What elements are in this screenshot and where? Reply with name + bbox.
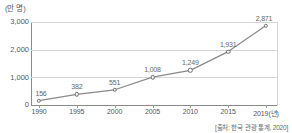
- y-tick-label-0: 0: [1, 101, 29, 109]
- data-label-2000: 551: [109, 79, 120, 86]
- x-tick-label-2019: 2019(년): [253, 108, 279, 118]
- data-label-2005: 1,008: [144, 66, 161, 73]
- data-label-1990: 156: [35, 90, 46, 97]
- x-tick-mark-1990: [39, 105, 40, 108]
- x-tick-mark-1995: [77, 105, 78, 108]
- x-axis-line: [31, 105, 278, 106]
- x-tick-mark-2019: [266, 105, 267, 108]
- line-chart: (만 명) 3,000 2,000 1,000 0 1563825511,008…: [0, 0, 292, 133]
- x-tick-mark-2000: [115, 105, 116, 108]
- data-label-2010: 1,249: [182, 59, 199, 66]
- y-axis-tick-labels: 3,000 2,000 1,000 0: [0, 0, 29, 133]
- x-tick-label-2015: 2015: [221, 108, 236, 115]
- data-label-2019: 2,871: [256, 15, 273, 22]
- data-label-1995: 382: [71, 83, 82, 90]
- source-note: [출처: 한국 관광 통계, 2020]: [215, 122, 288, 132]
- x-tick-mark-2015: [228, 105, 229, 108]
- x-tick-label-2010: 2010: [183, 108, 198, 115]
- x-tick-mark-2010: [190, 105, 191, 108]
- series-line: [31, 22, 278, 105]
- x-tick-label-1990: 1990: [31, 108, 46, 115]
- data-label-2015: 1,931: [220, 41, 237, 48]
- x-tick-label-2005: 2005: [145, 108, 160, 115]
- x-tick-label-2000: 2000: [107, 108, 122, 115]
- y-tick-label-2000: 2,000: [1, 46, 29, 54]
- y-tick-label-1000: 1,000: [1, 74, 29, 82]
- plot-area: 1563825511,0081,2491,9312,871: [31, 22, 278, 105]
- x-tick-mark-2005: [153, 105, 154, 108]
- x-tick-label-1995: 1995: [69, 108, 84, 115]
- y-tick-label-3000: 3,000: [1, 18, 29, 26]
